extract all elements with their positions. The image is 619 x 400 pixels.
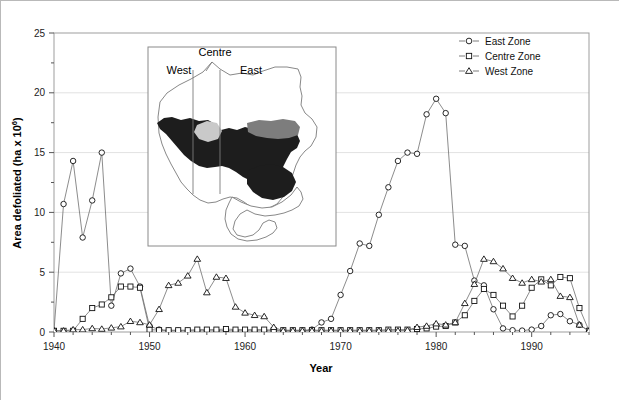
legend-label: Centre Zone: [485, 51, 541, 62]
defoliation-time-series-chart: 0510152025 194019501960197019801990 West…: [1, 1, 619, 400]
data-point: [89, 198, 94, 203]
data-point: [558, 274, 563, 279]
data-point: [414, 151, 419, 156]
legend-marker-square: [466, 53, 471, 58]
data-point: [405, 150, 410, 155]
inset-label-centre: Centre: [198, 46, 231, 58]
y-tick-label: 10: [34, 207, 46, 218]
data-point: [147, 327, 152, 332]
data-point: [99, 150, 104, 155]
data-point: [357, 241, 362, 246]
data-point: [424, 112, 429, 117]
data-point: [80, 316, 85, 321]
data-point: [157, 328, 162, 333]
data-point: [118, 271, 123, 276]
data-point: [395, 158, 400, 163]
data-point: [548, 313, 553, 318]
inset-label-west: West: [167, 64, 192, 76]
inset-map-ontario: WestCentreEast: [148, 46, 336, 246]
data-point: [577, 306, 582, 311]
data-point: [338, 292, 343, 297]
data-point: [453, 242, 458, 247]
x-tick-label: 1960: [234, 341, 257, 352]
data-point: [166, 328, 171, 333]
data-point: [90, 306, 95, 311]
data-point: [462, 243, 467, 248]
data-point: [195, 327, 200, 332]
data-point: [185, 328, 190, 333]
x-axis-title: Year: [309, 362, 333, 374]
data-point: [70, 158, 75, 163]
legend-marker-circle: [466, 38, 472, 44]
y-tick-label: 5: [39, 267, 45, 278]
data-point: [328, 316, 333, 321]
x-tick-label: 1950: [138, 341, 161, 352]
data-point: [99, 302, 104, 307]
legend-label: East Zone: [485, 36, 531, 47]
figure-container: 0510152025 194019501960197019801990 West…: [0, 0, 619, 400]
data-point: [510, 314, 515, 319]
data-point: [529, 285, 534, 290]
data-point: [433, 96, 438, 101]
data-point: [462, 313, 467, 318]
data-point: [529, 327, 534, 332]
legend-label: West Zone: [485, 66, 534, 77]
data-point: [347, 268, 352, 273]
data-point: [520, 303, 525, 308]
data-point: [80, 235, 85, 240]
data-point: [204, 327, 209, 332]
data-point: [491, 292, 496, 297]
data-point: [481, 286, 486, 291]
data-point: [319, 320, 324, 325]
data-point: [252, 327, 257, 332]
data-point: [548, 283, 553, 288]
y-tick-label: 25: [34, 28, 46, 39]
x-tick-label: 1990: [521, 341, 544, 352]
x-tick-label: 1970: [329, 341, 352, 352]
y-tick-label: 15: [34, 147, 46, 158]
data-point: [128, 284, 133, 289]
y-tick-label: 20: [34, 87, 46, 98]
data-point: [539, 323, 544, 328]
data-point: [376, 212, 381, 217]
data-point: [500, 303, 505, 308]
data-point: [567, 319, 572, 324]
data-point: [243, 327, 248, 332]
x-tick-label: 1940: [43, 341, 66, 352]
x-tick-label: 1980: [425, 341, 448, 352]
inset-label-east: East: [240, 64, 262, 76]
data-point: [558, 311, 563, 316]
data-point: [472, 298, 477, 303]
data-point: [214, 327, 219, 332]
data-point: [223, 326, 228, 331]
data-point: [262, 327, 267, 332]
y-tick-label: 0: [39, 327, 45, 338]
data-point: [118, 284, 123, 289]
y-axis-title: Area defoliated (ha x 106): [10, 117, 24, 249]
data-point: [491, 307, 496, 312]
data-point: [137, 285, 142, 290]
data-point: [443, 110, 448, 115]
data-point: [109, 303, 114, 308]
data-point: [109, 295, 114, 300]
data-point: [386, 185, 391, 190]
data-point: [233, 327, 238, 332]
data-point: [567, 276, 572, 281]
data-point: [367, 243, 372, 248]
data-point: [176, 328, 181, 333]
data-point: [128, 266, 133, 271]
data-point: [500, 326, 505, 331]
data-point: [61, 201, 66, 206]
